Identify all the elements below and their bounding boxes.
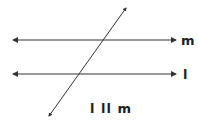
label-m: m xyxy=(181,34,195,47)
label-l: l xyxy=(183,68,187,81)
parallel-statement: l ll m xyxy=(90,102,132,115)
transversal-line xyxy=(49,8,126,116)
